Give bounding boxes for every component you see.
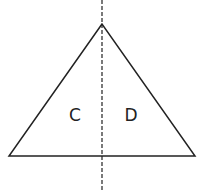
region-label-left: C — [69, 105, 81, 125]
region-label-right: D — [124, 105, 137, 125]
symmetry-diagram: C D — [0, 0, 206, 190]
